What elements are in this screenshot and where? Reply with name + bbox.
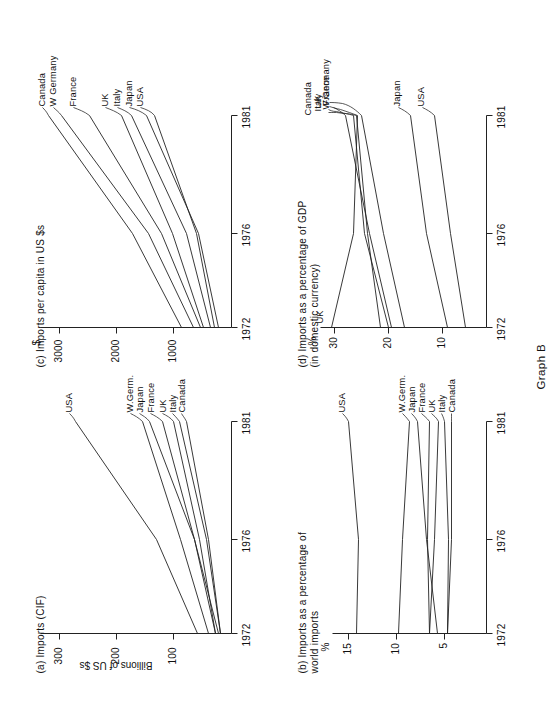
panel-a-yaxis-title: Billions of US $s — [46, 660, 186, 671]
series-italy — [353, 115, 388, 327]
panel-b-label-canada: Canada — [446, 379, 456, 412]
panel-a-label-wgerm: W.Germ. — [124, 374, 134, 412]
panel-d-xtick-1976: 1976 — [495, 223, 506, 246]
panel-b-xtick-1981: 1981 — [495, 411, 506, 434]
series-italy — [179, 421, 220, 633]
panel-c-label-uk: UK — [99, 93, 109, 106]
panel-d-ytick-20: 20 — [381, 336, 392, 348]
panel-c-axis-unit: $ — [30, 339, 41, 345]
panel-b-ytick-5: 5 — [437, 642, 448, 648]
series-japan — [146, 115, 218, 327]
series-uk — [331, 115, 357, 327]
series-wgerm — [61, 115, 193, 327]
panel-d-axis-unit: % — [306, 336, 317, 345]
panel-c-plot — [26, 99, 262, 367]
panel-a-label-italy: Italy — [167, 394, 177, 412]
series-usa — [154, 115, 214, 327]
panel-c-xtick-1972: 1972 — [240, 317, 251, 340]
series-canada — [48, 115, 181, 327]
panel-d-ytick-30: 30 — [327, 336, 338, 348]
panel-d-label-canada: Canada — [302, 82, 312, 115]
series-usa — [75, 421, 197, 633]
series-wgerm — [142, 421, 208, 633]
series-italy — [131, 115, 210, 327]
panel-b-axis-unit: % — [319, 642, 330, 651]
series-france — [361, 115, 404, 327]
panel-a-label-france: France — [145, 382, 155, 412]
panel-b-label-uk: UK — [426, 399, 436, 412]
series-canada — [356, 115, 380, 327]
series-usa — [434, 115, 465, 327]
series-france — [89, 115, 200, 327]
series-wgerm — [398, 421, 409, 633]
panel-b-xtick-1972: 1972 — [495, 623, 506, 646]
panel-b-ytick-10: 10 — [389, 642, 400, 654]
figure-sheet: (a) Imports (CIF) — [0, 0, 549, 719]
panel-a-label-uk: UK — [157, 399, 167, 412]
figure-caption: Graph B — [534, 343, 546, 389]
rotated-figure-sheet: (a) Imports (CIF) — [0, 0, 549, 719]
panel-c-xtick-1976: 1976 — [240, 223, 251, 246]
series-japan — [417, 421, 437, 633]
series-france — [162, 421, 215, 633]
panel-b-label-wgerm: W.Germ. — [396, 374, 406, 412]
panel-d-label-france: France — [320, 75, 330, 105]
panel-d: (d) Imports as a percentage of GDP (in d… — [292, 99, 528, 367]
panel-d-ytick-10: 10 — [435, 336, 446, 348]
panel-b-label-usa: USA — [336, 392, 346, 412]
panel-c-ytick-3000: 3000 — [52, 339, 63, 362]
series-wgermany — [345, 115, 391, 327]
panel-d-annotation-uk: UK — [314, 310, 324, 323]
panel-c-label-france: France — [67, 76, 77, 106]
panel-b-label-japan: Japan — [406, 386, 416, 412]
panel-d-xtick-1981: 1981 — [495, 105, 506, 128]
panel-b-xtick-1976: 1976 — [495, 529, 506, 552]
panel-c-label-canada: Canada — [36, 73, 46, 106]
panel-d-label-japan: Japan — [391, 80, 401, 106]
panel-b-label-france: France — [416, 382, 426, 412]
panel-a-xtick-1981: 1981 — [240, 411, 251, 434]
panel-a-plot — [26, 405, 262, 673]
panel-c-ytick-1000: 1000 — [166, 339, 177, 362]
panel-c-label-wgermany: W Germany — [47, 55, 57, 106]
panel-c-xtick-1981: 1981 — [240, 105, 251, 128]
panel-c-ytick-2000: 2000 — [109, 339, 120, 362]
panel-c-label-usa: USA — [134, 86, 144, 106]
panel-b-ytick-15: 15 — [341, 642, 352, 654]
panel-c: (c) Imports per capita in US $s — [26, 99, 262, 367]
series-usa — [348, 421, 358, 633]
panel-b-plot — [292, 405, 528, 673]
panel-d-plot — [292, 99, 528, 367]
panel-d-xtick-1972: 1972 — [495, 317, 506, 340]
series-japan — [410, 115, 447, 327]
panel-c-label-italy: Italy — [111, 88, 121, 106]
panel-a-label-canada: Canada — [176, 379, 186, 412]
panel-a: (a) Imports (CIF) — [26, 405, 262, 673]
panel-a-xtick-1976: 1976 — [240, 529, 251, 552]
panel-a-label-usa: USA — [63, 392, 73, 412]
series-italy — [444, 421, 448, 633]
panel-b-label-italy: Italy — [436, 394, 446, 412]
panel-a-label-japan: Japan — [134, 386, 144, 412]
panel-b: (b) Imports as a percentage of world imp… — [292, 405, 528, 673]
series-uk — [121, 115, 203, 327]
panel-c-label-japan: Japan — [123, 80, 133, 106]
panel-d-label-usa: USA — [415, 86, 425, 106]
panel-a-xtick-1972: 1972 — [240, 623, 251, 646]
series-france — [427, 421, 429, 633]
